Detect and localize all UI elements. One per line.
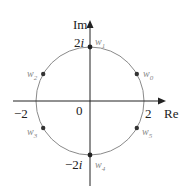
point-w5 [135,126,139,130]
point-w2 [41,72,45,76]
tick-pos-imag-unit: i [81,35,85,50]
label-w1: w1 [95,37,105,50]
imag-axis-label: Im [73,18,87,31]
point-w4 [88,153,93,158]
label-w0: w0 [143,69,153,82]
tick-neg-imag-num: −2 [65,157,79,172]
tick-pos-real: 2 [145,107,152,120]
imag-axis-arrow-icon [87,20,94,28]
label-w5: w5 [142,127,152,140]
tick-pos-imag: 2i [74,36,84,49]
origin-label: 0 [76,104,83,117]
tick-neg-real: −2 [14,107,28,120]
real-axis-arrow-icon [158,98,166,105]
label-w2: w2 [27,69,37,82]
label-w4: w4 [95,160,105,173]
tick-neg-imag-unit: i [79,157,83,172]
tick-neg-imag: −2i [65,158,82,171]
real-axis-label: Re [164,107,178,120]
point-w0 [135,72,139,76]
point-w1 [88,45,93,50]
label-w3: w3 [27,127,37,140]
point-w3 [41,126,45,130]
